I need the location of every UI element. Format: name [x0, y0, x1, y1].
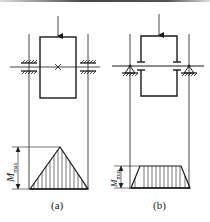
- mmax-label-b: Mmax: [109, 169, 121, 187]
- mmax-subscript-b: max: [115, 169, 121, 179]
- caption-a: (a): [51, 199, 63, 211]
- mmax-subscript-a: max: [12, 162, 18, 172]
- bending-moment-diagram: [0, 0, 210, 222]
- panel-b: [112, 14, 204, 189]
- mmax-symbol-b: M: [109, 180, 119, 188]
- moment-diagram-trapezoid: [114, 166, 190, 188]
- frame-lower-b: [141, 70, 177, 96]
- mmax-label-a: Mmax: [4, 162, 18, 182]
- caption-b: (b): [153, 199, 166, 211]
- frame-upper-b: [141, 36, 177, 62]
- mmax-symbol-a: M: [4, 173, 16, 182]
- moment-diagram-triangle: [12, 147, 88, 189]
- panel-a: [10, 16, 100, 189]
